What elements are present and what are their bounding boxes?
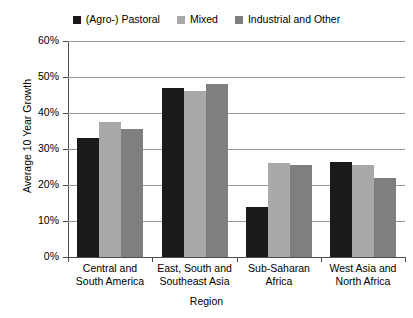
bar-sub-saharan-africa-agro-pastoral[interactable]: [246, 207, 268, 257]
plot-area: [68, 41, 405, 257]
x-axis-title: Region: [0, 295, 413, 307]
y-tick-label-10: 10%: [26, 215, 59, 226]
bar-west-asia-and-north-africa-industrial-and-other[interactable]: [374, 178, 396, 257]
x-label-line-2: South America: [68, 275, 152, 288]
bar-east-south-and-southeast-asia-mixed[interactable]: [184, 91, 206, 257]
x-label-sub-saharan-africa: Sub-Saharan Africa: [237, 262, 321, 287]
legend-swatch-industrial-and-other: [235, 16, 243, 24]
x-label-central-and-south-america: Central and South America: [68, 262, 152, 287]
x-axis-separator-4: [405, 257, 406, 262]
legend-swatch-agro-pastoral: [73, 16, 81, 24]
y-tick-label-0: 0%: [26, 251, 59, 262]
x-label-line-1: East, South and: [152, 262, 237, 275]
legend-label-mixed: Mixed: [190, 14, 218, 25]
legend-item-mixed[interactable]: Mixed: [177, 14, 218, 25]
bar-east-south-and-southeast-asia-industrial-and-other[interactable]: [206, 84, 228, 257]
x-label-line-2: Southeast Asia: [152, 275, 237, 288]
bar-sub-saharan-africa-mixed[interactable]: [268, 163, 290, 257]
legend-item-industrial-and-other[interactable]: Industrial and Other: [235, 14, 340, 25]
y-axis-title: Average 10 Year Growth: [21, 56, 33, 216]
bar-west-asia-and-north-africa-mixed[interactable]: [352, 165, 374, 257]
bar-group-east-south-and-southeast-asia: [152, 41, 237, 257]
bars-layer: [68, 41, 405, 257]
bar-central-and-south-america-agro-pastoral[interactable]: [77, 138, 99, 257]
chart-legend: (Agro-) Pastoral Mixed Industrial and Ot…: [0, 14, 413, 25]
bar-east-south-and-southeast-asia-agro-pastoral[interactable]: [162, 88, 184, 257]
bar-west-asia-and-north-africa-agro-pastoral[interactable]: [330, 162, 352, 257]
bar-chart: (Agro-) Pastoral Mixed Industrial and Ot…: [0, 0, 413, 318]
bar-sub-saharan-africa-industrial-and-other[interactable]: [290, 165, 312, 257]
legend-label-agro-pastoral: (Agro-) Pastoral: [86, 14, 160, 25]
bar-group-west-asia-and-north-africa: [321, 41, 405, 257]
y-tick-label-60: 60%: [26, 35, 59, 46]
x-label-west-asia-and-north-africa: West Asia and North Africa: [321, 262, 405, 287]
bar-central-and-south-america-industrial-and-other[interactable]: [121, 129, 143, 257]
bar-group-central-and-south-america: [68, 41, 152, 257]
legend-item-agro-pastoral[interactable]: (Agro-) Pastoral: [73, 14, 160, 25]
bar-central-and-south-america-mixed[interactable]: [99, 122, 121, 257]
x-axis-labels: Central and South America East, South an…: [68, 262, 405, 296]
x-label-line-1: Sub-Saharan: [237, 262, 321, 275]
legend-swatch-mixed: [177, 16, 185, 24]
x-label-east-south-and-southeast-asia: East, South and Southeast Asia: [152, 262, 237, 287]
x-label-line-2: Africa: [237, 275, 321, 288]
x-label-line-1: Central and: [68, 262, 152, 275]
x-label-line-2: North Africa: [321, 275, 405, 288]
legend-label-industrial-and-other: Industrial and Other: [248, 14, 340, 25]
x-label-line-1: West Asia and: [321, 262, 405, 275]
bar-group-sub-saharan-africa: [237, 41, 321, 257]
